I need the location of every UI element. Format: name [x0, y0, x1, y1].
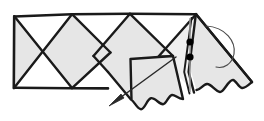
bottom-edge-left	[15, 88, 109, 89]
emphasis-dot-upper	[186, 38, 193, 45]
figure-canvas: Folded paper strip diagram Hand-drawn ge…	[0, 0, 264, 121]
folded-paper-diagram	[0, 0, 264, 121]
emphasis-dot-lower	[186, 53, 193, 60]
